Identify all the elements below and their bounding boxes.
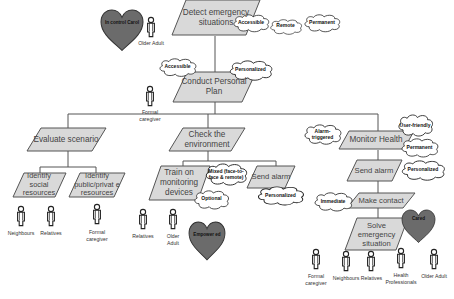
person-label-relatives-left: Relatives	[37, 230, 65, 237]
heart-in-control: In control Carol	[105, 14, 139, 32]
person-label-older-adult-right: Older Adult	[421, 273, 447, 280]
process-solve-emergency: Solve emergency situation	[349, 219, 404, 250]
cloud-conduct-personalized: Personalized	[229, 61, 272, 79]
cloud-send-mid-personalized: Personalized	[257, 187, 304, 204]
cloud-monitor-permanent: Permanent	[401, 139, 438, 156]
person-label-older-adult-top: Older Adult	[138, 40, 164, 47]
cloud-monitor-alarm-triggered: Alarm-triggered	[305, 126, 340, 143]
process-identify-public: Identify public/privat e resources	[72, 173, 122, 197]
process-identify-social: Identify social resources	[17, 173, 61, 197]
person-label-formal-caregiver-top: Formal caregiver	[134, 109, 166, 122]
cloud-send-right-personalized: Personalized	[401, 161, 445, 179]
person-label-older-adult-mid: Older Adult	[161, 233, 185, 246]
cloud-train-optional: Optional	[194, 191, 229, 207]
person-label-relatives-right: Relatives	[358, 275, 385, 282]
process-check-environment: Check the environment	[174, 129, 240, 150]
cloud-conduct-accessible: Accessible	[159, 59, 196, 75]
person-label-health-professionals: Health Professionals	[383, 272, 419, 285]
person-label-formal-caregiver-left: Formal caregiver	[81, 229, 113, 242]
cloud-monitor-user-friendly: User-friendly	[398, 116, 432, 135]
person-label-formal-caregiver-right: Formal caregiver	[300, 273, 332, 286]
process-evaluate-scenario: Evaluate scenario	[33, 129, 99, 150]
person-label-neighbours-left: Neighbours	[5, 230, 37, 237]
person-label-relatives-mid: Relatives	[129, 233, 157, 240]
cloud-train-mixed: Mixed (face-to-face & remote)	[207, 166, 245, 183]
cloud-detect-remote: Remote	[270, 19, 301, 33]
heart-empowered: Empower ed	[192, 227, 222, 243]
process-shapes	[13, 0, 415, 250]
process-make-contact: Make contact	[350, 193, 412, 208]
process-send-alarm-mid: Send alarm	[250, 166, 292, 188]
cloud-detect-accessible: Accessible	[233, 15, 269, 30]
cloud-detect-permanent: Permanent	[304, 15, 340, 30]
cloud-contact-immediate: Immediate	[314, 193, 352, 210]
process-send-alarm-right: Send alarm	[351, 160, 397, 181]
heart-cared: Cared	[405, 212, 432, 225]
